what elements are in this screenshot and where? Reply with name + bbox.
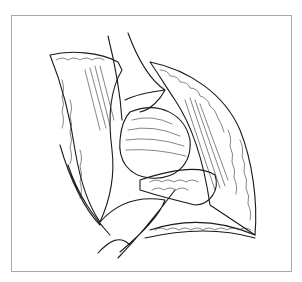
omentum-lobules (150, 180, 198, 190)
left-fat-tissue (56, 58, 104, 198)
lower-wound-edge (145, 222, 255, 238)
surgical-illustration (0, 0, 302, 282)
lower-retractor (98, 190, 175, 258)
retractor-instrument (108, 33, 165, 120)
organ-shading (126, 118, 186, 156)
right-fat-tissue (160, 70, 251, 220)
right-wound-edge (150, 62, 256, 235)
left-wound-edge (50, 52, 122, 222)
